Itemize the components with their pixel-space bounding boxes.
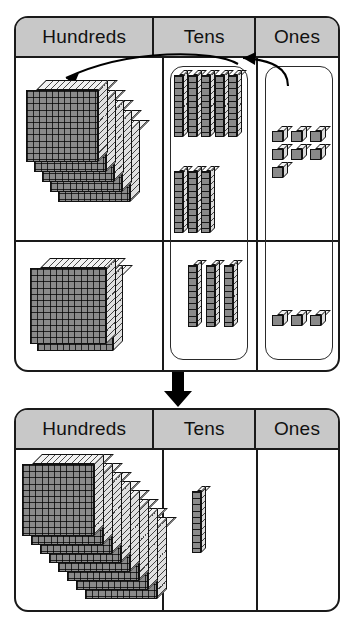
- ten-rod: [188, 260, 202, 327]
- result-down-arrow: [161, 372, 195, 408]
- hundred-flat: [22, 454, 104, 536]
- flat-front-face: [22, 464, 94, 536]
- one-unit-cube: [310, 310, 326, 326]
- bottom-ones-units: [274, 530, 334, 560]
- flat-side-face: [148, 508, 158, 590]
- one-unit-cube: [291, 310, 307, 326]
- flat-side-face: [94, 454, 104, 536]
- unit-side-face: [283, 310, 288, 326]
- rod-front-face: [206, 265, 215, 327]
- top-ones-row2-units: [272, 310, 330, 340]
- rod-side-face: [233, 260, 238, 327]
- flat-side-face: [98, 80, 108, 162]
- bottom-table-header-row: Hundreds Tens Ones: [16, 410, 338, 450]
- rod-front-face: [224, 265, 233, 327]
- flat-side-face: [121, 481, 131, 563]
- ten-rod: [206, 260, 220, 327]
- top-hundreds-row2-flats: [30, 258, 160, 368]
- flat-side-face: [130, 490, 140, 572]
- top-tens-row2-rods: [188, 260, 248, 350]
- unit-front-face: [310, 315, 321, 326]
- bottom-header-hundreds: Hundreds: [16, 410, 152, 448]
- flat-side-face: [106, 258, 116, 344]
- one-unit-cube: [272, 310, 288, 326]
- flat-side-face: [157, 517, 167, 599]
- bottom-tens-rods: [192, 486, 232, 576]
- bottom-place-value-table: Hundreds Tens Ones: [14, 408, 340, 612]
- bottom-column-divider-tens-ones: [256, 448, 258, 610]
- unit-side-face: [302, 310, 307, 326]
- flat-side-face: [103, 463, 113, 545]
- flat-side-face: [139, 499, 149, 581]
- unit-front-face: [272, 315, 283, 326]
- rod-side-face: [197, 260, 202, 327]
- unit-front-face: [291, 315, 302, 326]
- rod-front-face: [188, 265, 197, 327]
- flat-front-face: [30, 268, 106, 344]
- flat-side-face: [112, 472, 122, 554]
- unit-side-face: [321, 310, 326, 326]
- rod-side-face: [215, 260, 220, 327]
- bottom-header-ones: Ones: [254, 410, 338, 448]
- ten-rod: [224, 260, 238, 327]
- bottom-hundreds-flats: [22, 454, 162, 610]
- hundred-flat: [30, 258, 116, 344]
- rod-front-face: [192, 491, 201, 553]
- bottom-header-tens: Tens: [152, 410, 254, 448]
- rod-side-face: [201, 486, 206, 553]
- ten-rod: [192, 486, 206, 553]
- hundred-flat: [26, 80, 108, 162]
- flat-front-face: [26, 90, 98, 162]
